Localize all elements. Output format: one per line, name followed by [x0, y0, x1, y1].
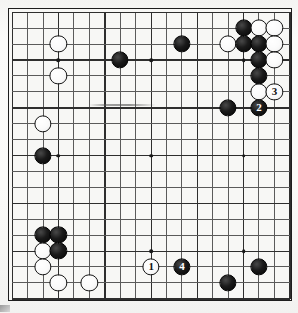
move-stone-2[interactable]: 2	[250, 99, 267, 116]
move-number: 1	[143, 259, 158, 274]
star-point	[149, 58, 153, 62]
grid-line-horizontal	[12, 298, 290, 299]
grid-line-horizontal	[12, 123, 290, 124]
move-number: 4	[174, 259, 189, 274]
star-point	[149, 154, 153, 158]
grid-line-horizontal	[12, 107, 290, 108]
grid-line-horizontal	[12, 91, 290, 92]
scan-corner-mark	[0, 305, 10, 312]
grid-line-horizontal	[12, 187, 290, 188]
star-point	[57, 154, 61, 158]
go-board-wrapper[interactable]: 3214	[8, 8, 292, 301]
go-diagram-page: 3214	[0, 0, 298, 313]
grid-line-horizontal	[12, 171, 290, 172]
grid-line-horizontal	[12, 219, 290, 220]
grid-line-horizontal	[12, 12, 290, 13]
star-point	[57, 58, 61, 62]
star-point	[242, 154, 246, 158]
move-stone-3[interactable]: 3	[266, 83, 283, 100]
star-point	[242, 249, 246, 253]
star-point	[149, 249, 153, 253]
move-number: 3	[267, 84, 282, 99]
grid-line-horizontal	[12, 203, 290, 204]
move-stone-4[interactable]: 4	[173, 258, 190, 275]
scan-smudge-artifact	[89, 104, 155, 106]
go-board[interactable]: 3214	[8, 8, 292, 301]
star-point	[242, 58, 246, 62]
move-number: 2	[251, 100, 266, 115]
move-stone-1[interactable]: 1	[142, 258, 159, 275]
grid-line-horizontal	[12, 139, 290, 140]
